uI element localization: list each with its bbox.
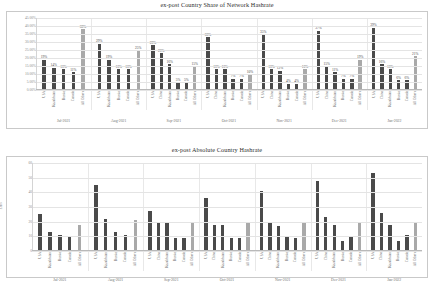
bar-wrapper: 16% xyxy=(168,18,171,90)
bar[interactable] xyxy=(223,69,226,90)
bar[interactable] xyxy=(325,66,328,90)
category-label-cell: USA xyxy=(206,90,209,118)
category-label-cell: All Others xyxy=(193,90,196,118)
bar[interactable] xyxy=(151,45,154,90)
category-label-cell: Kazakhstan xyxy=(388,251,391,277)
category-label-cell: USA xyxy=(42,90,45,118)
bar[interactable] xyxy=(52,68,55,90)
month-label: Nov-2021 xyxy=(255,278,311,282)
category-label-cell: Kazakhstan xyxy=(168,90,171,118)
bar[interactable] xyxy=(349,236,352,251)
bar-wrapper: 39% xyxy=(372,18,375,90)
y-tick-label: 15.00% xyxy=(25,64,36,68)
month-label: Aug-2021 xyxy=(88,278,144,282)
bar[interactable] xyxy=(285,236,288,251)
category-label: All Others xyxy=(413,91,417,105)
bar[interactable] xyxy=(213,225,216,251)
category-label: Kazakhstan xyxy=(104,252,108,268)
category-label: China xyxy=(157,252,161,260)
bar[interactable] xyxy=(137,50,140,90)
category-label-group: USAKazakhstanRussiaCanadaAll Others xyxy=(32,251,88,277)
category-label: All Others xyxy=(136,91,140,105)
month-label: Dec-2021 xyxy=(311,278,367,282)
bar[interactable] xyxy=(81,29,84,90)
category-label-cell: USA xyxy=(204,251,207,277)
category-label: Kazakhstan xyxy=(221,252,225,268)
bar[interactable] xyxy=(168,64,171,90)
category-label-cell: Canada xyxy=(294,251,297,277)
bar[interactable] xyxy=(333,225,336,251)
y-axis-line xyxy=(36,18,37,90)
category-label: China xyxy=(214,91,218,99)
bar[interactable] xyxy=(62,69,65,90)
category-label-group: USAKazakhstanRussiaCanadaAll Others xyxy=(36,90,91,118)
category-label: Russia xyxy=(117,91,121,100)
bar[interactable] xyxy=(389,69,392,90)
bar-wrapper: 13% xyxy=(215,18,218,90)
category-label: USA xyxy=(38,252,42,259)
bar-wrapper: 10% xyxy=(248,18,251,90)
y-axis-line xyxy=(32,163,33,251)
category-label: USA xyxy=(316,91,320,98)
category-label: Kazakhstan xyxy=(276,252,280,268)
bar[interactable] xyxy=(104,219,107,251)
category-label: Kazakhstan xyxy=(48,252,52,268)
category-label-group: USAChinaKazakhstanRussiaCanadaAll Others xyxy=(367,90,422,118)
bar[interactable] xyxy=(380,64,383,90)
bar[interactable] xyxy=(316,181,319,251)
bar[interactable] xyxy=(127,69,130,90)
bar[interactable] xyxy=(215,69,218,90)
bar-wrapper: 19% xyxy=(107,18,110,90)
y-tick-label: 40.00% xyxy=(25,24,36,28)
category-label-cell: USA xyxy=(262,90,265,118)
category-label-group: USAChinaKazakhstanRussiaCanadaAll Others xyxy=(312,90,367,118)
bar[interactable] xyxy=(371,173,374,251)
category-label-cell: Canada xyxy=(405,90,408,118)
bar[interactable] xyxy=(68,236,71,251)
category-label: Kazakhstan xyxy=(107,91,111,107)
bar[interactable] xyxy=(270,69,273,90)
bar-wrapper: 19% xyxy=(358,18,361,90)
bar[interactable] xyxy=(94,185,97,251)
bar[interactable] xyxy=(277,226,280,251)
category-label: All Others xyxy=(246,252,250,266)
chart1-plot-area: 19%14%13%11%38%29%19%13%13%25%28%23%16%5… xyxy=(36,18,422,90)
gridline xyxy=(36,50,422,51)
category-label-group: USAChinaKazakhstanRussiaCanadaAll Others xyxy=(311,251,367,277)
bar-group: 19%14%13%11%38% xyxy=(36,18,91,90)
bar[interactable] xyxy=(117,69,120,90)
category-label-cell: Russia xyxy=(176,90,179,118)
bar[interactable] xyxy=(221,225,224,251)
bar[interactable] xyxy=(38,214,41,251)
bar[interactable] xyxy=(78,225,81,251)
category-label-group: USAKazakhstanRussiaCanadaAll Others xyxy=(91,90,146,118)
month-label: Jul-2021 xyxy=(32,278,88,282)
bar[interactable] xyxy=(388,225,391,251)
bar[interactable] xyxy=(303,69,306,90)
category-label: USA xyxy=(94,252,98,259)
category-label-cell: China xyxy=(380,251,383,277)
category-label-cell: Canada xyxy=(405,251,408,277)
category-label-cell: Kazakhstan xyxy=(278,90,281,118)
category-label: Canada xyxy=(240,91,244,101)
bar-value-label: 21% xyxy=(412,52,418,56)
bar[interactable] xyxy=(193,66,196,90)
category-label: Canada xyxy=(68,252,72,262)
gridline xyxy=(36,34,422,35)
bar[interactable] xyxy=(148,211,151,251)
category-label-cell: All Others xyxy=(414,251,417,277)
bar-wrapper: 19% xyxy=(42,18,45,90)
category-label-cell: Canada xyxy=(349,251,352,277)
category-label: Canada xyxy=(349,252,353,262)
category-label: All Others xyxy=(303,91,307,105)
category-label-cell: Russia xyxy=(62,90,65,118)
bar[interactable] xyxy=(114,232,117,251)
category-label: Canada xyxy=(350,91,354,101)
category-label-cell: USA xyxy=(98,90,101,118)
category-label-cell: All Others xyxy=(246,251,249,277)
bar[interactable] xyxy=(380,213,383,251)
y-tick-label: 5.00% xyxy=(27,80,36,84)
category-label: USA xyxy=(97,91,101,98)
bar[interactable] xyxy=(48,232,51,251)
category-label: Kazakhstan xyxy=(223,91,227,107)
